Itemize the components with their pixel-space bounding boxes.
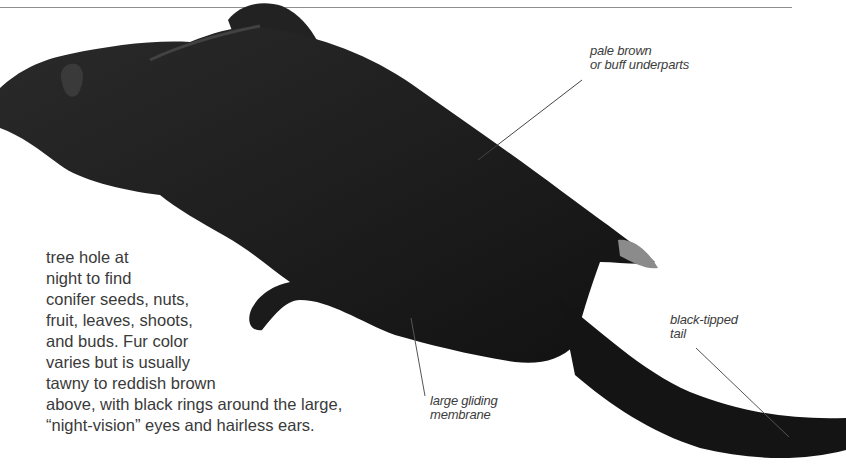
body-line: conifer seeds, nuts,	[46, 289, 342, 310]
body-line: “night-vision” eyes and hairless ears.	[46, 415, 342, 436]
underparts-label: pale brown or buff underparts	[590, 44, 689, 72]
tail-label: black-tipped tail	[670, 313, 738, 341]
body-line: and buds. Fur color	[46, 331, 342, 352]
body-line: fruit, leaves, shoots,	[46, 310, 342, 331]
membrane-label: large gliding membrane	[430, 394, 498, 422]
body-line: above, with black rings around the large…	[46, 394, 342, 415]
body-line: varies but is usually	[46, 352, 342, 373]
body-line: tawny to reddish brown	[46, 373, 342, 394]
body-text: tree hole at night to find conifer seeds…	[46, 247, 342, 436]
body-line: night to find	[46, 268, 342, 289]
body-line: tree hole at	[46, 247, 342, 268]
